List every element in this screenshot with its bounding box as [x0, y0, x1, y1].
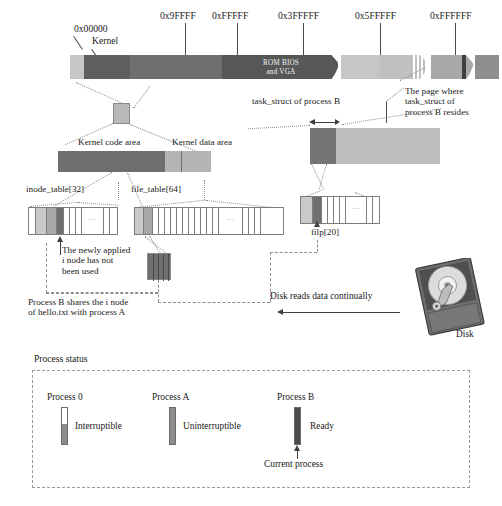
inode-table-leader-v — [118, 182, 119, 200]
address-label-0x5FFFFF: 0x5FFFFF — [355, 11, 396, 22]
file-cell-used-2 — [144, 208, 153, 234]
kernel-label: Kernel — [92, 36, 118, 47]
current-process-arrow-line — [297, 450, 298, 459]
dash-route-up-2 — [317, 240, 318, 252]
shared-inode-note-line1: Process B shares the i node — [28, 297, 128, 307]
dash-route-right-2 — [270, 252, 317, 253]
legend-name-process-0: Process 0 — [47, 392, 83, 403]
legend-status-process-b: Ready — [310, 421, 334, 432]
filp-arrow-head — [314, 221, 320, 227]
page-divider-2 — [417, 55, 419, 79]
file-struct-hatch — [163, 254, 164, 281]
filp-cell-used-1 — [301, 197, 313, 223]
task-struct-block — [310, 128, 336, 164]
task-struct-page-rest — [336, 128, 440, 164]
disk-read-arrow-head — [277, 309, 283, 315]
new-inode-note: The newly applied i node has not been us… — [62, 245, 130, 276]
leader-task-struct-caption — [248, 125, 310, 129]
new-inode-note-line3: been used — [62, 266, 130, 276]
legend-bar-fill-process-b — [295, 408, 300, 444]
new-inode-arrow-head — [57, 236, 63, 242]
filp-cell-used-2 — [313, 197, 322, 223]
mem-seg-main — [130, 55, 222, 79]
shared-note-top — [46, 293, 158, 294]
page-divider-1 — [413, 55, 415, 79]
tick-0xFFFFFF — [455, 23, 456, 55]
task-struct-page-box — [310, 128, 440, 164]
current-process-label: Current process — [264, 459, 323, 470]
legend-bar-fill-process-0 — [62, 424, 67, 444]
legend-status-process-0: Interruptible — [75, 421, 122, 432]
inode-cell — [110, 208, 116, 234]
new-inode-note-line1: The newly applied — [62, 245, 130, 255]
tick-0x5FFFFF — [380, 23, 381, 55]
kernel-data-area-block-1 — [165, 151, 181, 172]
leader-kernel-zoom-b — [133, 86, 151, 109]
disk-read-arrow-line — [282, 312, 400, 313]
legend-name-process-a: Process A — [152, 392, 189, 403]
rom-bios-vga-text: ROM BIOS and VGA — [238, 59, 324, 77]
filp-cell — [373, 197, 379, 223]
diagram-canvas: 0x00000 0x9FFFF 0xFFFFF 0x3FFFFF 0x5FFFF… — [0, 0, 502, 506]
shared-inode-note: Process B shares the i node of hello.txt… — [28, 297, 128, 318]
tick-0x9FFFF — [185, 23, 186, 55]
file-table-strip — [134, 207, 284, 235]
legend-bar-fill-process-a — [170, 408, 175, 444]
disk-label: Disk — [456, 329, 474, 340]
filp-strip — [300, 196, 380, 224]
disk-drive-icon — [414, 258, 488, 336]
rom-bios-line1: ROM BIOS — [238, 59, 324, 68]
address-label-0x3FFFFF: 0x3FFFFF — [278, 11, 319, 22]
filp-cell-ellipsis — [346, 197, 367, 223]
address-label-0x9FFFF: 0x9FFFF — [160, 11, 196, 22]
legend-bar-process-a — [169, 407, 176, 445]
file-struct-hatch — [168, 254, 169, 281]
file-struct-hatch — [153, 254, 154, 281]
inode-cell-ellipsis — [82, 208, 104, 234]
legend-heading: Process status — [34, 354, 88, 365]
filp-label: filp[20] — [311, 227, 339, 237]
page-divider-5 — [429, 55, 431, 79]
kernel-code-area-label: Kernel code area — [78, 137, 140, 147]
mem-seg-kernel — [84, 55, 130, 79]
file-struct-box — [147, 253, 171, 280]
new-inode-note-line2: i node has not — [62, 255, 130, 265]
task-struct-bracket-arrow-right — [335, 119, 340, 125]
task-struct-bracket-arrow-left — [309, 119, 315, 125]
legend-bar-process-0 — [61, 407, 68, 445]
page-residence-line1: The page where — [405, 86, 469, 96]
file-table-label: file_table[64] — [131, 184, 181, 194]
file-cell-used-1 — [135, 208, 144, 234]
file-struct-hatch — [158, 254, 159, 281]
inode-cell — [29, 208, 36, 234]
inode-cell-used-2 — [47, 208, 57, 234]
dash-route-right-1 — [158, 302, 270, 303]
dash-route-down-1 — [158, 280, 159, 302]
legend-name-process-b: Process B — [277, 392, 314, 403]
inode-table-arc-right — [78, 202, 118, 206]
page-note-bracket — [386, 101, 387, 123]
kernel-data-area-label: Kernel data area — [172, 137, 232, 147]
inode-cell-new — [57, 208, 64, 234]
mem-seg-low — [70, 55, 84, 79]
disk-read-caption: Disk reads data continually — [270, 291, 372, 302]
file-table-leader-v — [204, 180, 205, 200]
current-process-arrow-head — [294, 445, 300, 451]
address-label-0x00000: 0x00000 — [74, 24, 108, 35]
kernel-area-bar — [58, 151, 211, 172]
file-cell — [261, 208, 267, 234]
inode-table-label: inode_table[32] — [26, 184, 84, 194]
tick-0x00000 — [73, 36, 83, 50]
rom-bios-line2: and VGA — [238, 68, 324, 77]
tick-0x3FFFFF — [303, 23, 304, 55]
address-label-0xFFFFF: 0xFFFFF — [212, 11, 248, 22]
legend-status-process-a: Uninterruptible — [183, 421, 241, 432]
file-cell-ellipsis — [219, 208, 243, 234]
legend-bar-process-b — [294, 407, 301, 445]
inode-cell-used-1 — [36, 208, 47, 234]
inode-table-strip — [28, 207, 118, 235]
leader-filp-b — [319, 164, 327, 189]
tick-0xFFFFF — [237, 23, 238, 55]
shared-inode-note-line2: of hello.txt with process A — [28, 307, 128, 317]
kernel-data-area-block-2 — [182, 151, 211, 172]
